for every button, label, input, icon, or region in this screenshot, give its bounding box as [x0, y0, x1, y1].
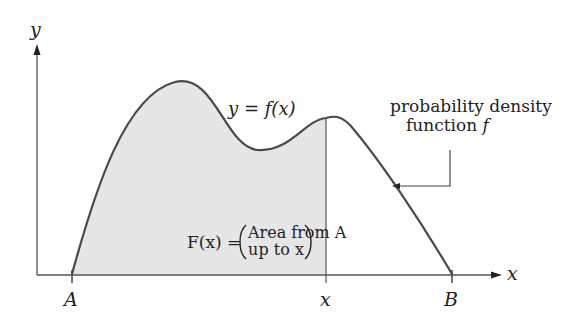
tick-label-b: B	[444, 288, 458, 310]
x-axis-label: x	[507, 262, 518, 284]
y-axis-arrow-icon	[34, 44, 41, 55]
callout-line2: function	[406, 115, 483, 135]
tick-label-x: x	[320, 288, 331, 310]
area-formula-text: Area from A up to x	[248, 224, 304, 258]
x-axis-arrow-icon	[491, 272, 502, 279]
curve-label: y = f(x)	[228, 98, 296, 119]
area-line2: up to x	[248, 241, 304, 258]
callout-line1: probability density	[390, 97, 552, 116]
callout-var: f	[483, 115, 489, 135]
callout-leader	[398, 150, 450, 186]
y-axis-label: y	[30, 18, 41, 40]
callout-label: probability density function f	[390, 97, 552, 135]
tick-label-a: A	[64, 288, 78, 310]
area-line1: Area from A	[248, 224, 304, 241]
area-formula-lhs: F(x) =	[187, 232, 241, 252]
pdf-diagram	[0, 0, 563, 325]
